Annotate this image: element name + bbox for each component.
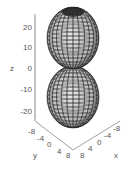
x-tick-label: -4 — [104, 131, 112, 140]
surface-plot-3d: 20 10 0 -10 -20 z -8 -4 0 4 8 y 8 4 0 -4… — [0, 0, 130, 169]
z-axis-label: z — [10, 64, 14, 73]
pole-dark-cap — [62, 7, 84, 17]
surface-upper-lobe — [47, 7, 99, 69]
z-tick-label: 20 — [23, 23, 32, 32]
z-tick-label: 10 — [23, 43, 32, 52]
x-axis-label: x — [114, 151, 118, 160]
z-axis: 20 10 0 -10 -20 z — [10, 14, 36, 121]
surface-lower-lobe — [47, 66, 99, 128]
z-tick-label: 0 — [28, 64, 33, 73]
x-tick-label: 4 — [88, 144, 93, 153]
x-tick-label: 8 — [80, 151, 85, 160]
y-tick-label: 0 — [47, 140, 52, 149]
y-tick-label: 8 — [66, 151, 71, 160]
z-tick-label: -10 — [20, 85, 32, 94]
y-tick-label: 4 — [57, 147, 62, 156]
y-tick-label: -4 — [37, 134, 45, 143]
y-axis-label: y — [33, 151, 37, 160]
y-tick-label: -8 — [28, 127, 36, 136]
x-tick-label: -8 — [113, 124, 121, 133]
z-tick-label: -20 — [20, 107, 32, 116]
x-tick-label: 0 — [97, 138, 102, 147]
